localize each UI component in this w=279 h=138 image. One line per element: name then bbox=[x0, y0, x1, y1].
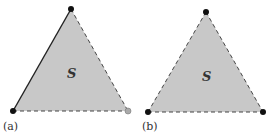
panel-b bbox=[145, 9, 266, 115]
vertex-right-a bbox=[125, 108, 131, 114]
region-label-a: S bbox=[67, 66, 76, 81]
region-label-b: S bbox=[202, 69, 211, 84]
region-s-b bbox=[148, 12, 263, 112]
vertex-top-b bbox=[203, 9, 209, 15]
vertex-top-a bbox=[68, 6, 74, 12]
vertex-left-a bbox=[10, 108, 16, 114]
vertex-left-b bbox=[145, 109, 151, 115]
diagram-canvas bbox=[0, 0, 279, 138]
panel-label-b: (b) bbox=[142, 120, 158, 133]
panel-label-a: (a) bbox=[3, 120, 18, 133]
region-s-a bbox=[13, 9, 128, 111]
panel-a bbox=[10, 6, 131, 114]
vertex-right-b bbox=[260, 109, 266, 115]
